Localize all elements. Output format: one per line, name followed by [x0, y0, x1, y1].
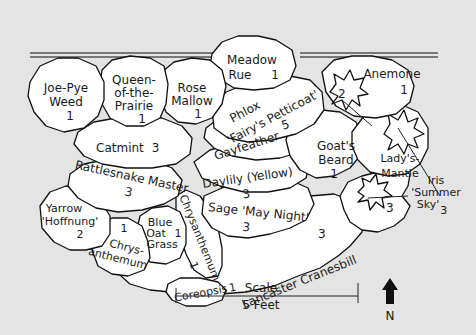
- label-phlox-qty: 2: [338, 87, 346, 101]
- label-iris-summer-sky: Iris'SummerSky'3: [411, 174, 461, 217]
- scale-label: Scale: [245, 281, 277, 295]
- compass-label: N: [386, 309, 395, 323]
- scale-value: 5 Feet: [242, 298, 279, 312]
- svg-text:3: 3: [242, 220, 251, 235]
- label-iris-bed-qty: 3: [386, 201, 394, 215]
- garden-plan: Joe-PyeWeed1 Queen-of-the-Prairie1 RoseM…: [0, 0, 476, 335]
- north-arrow-icon: N: [382, 278, 398, 323]
- label-chrysanthemum-qty: 1: [121, 222, 128, 235]
- label-lancaster-qty: 3: [318, 227, 326, 241]
